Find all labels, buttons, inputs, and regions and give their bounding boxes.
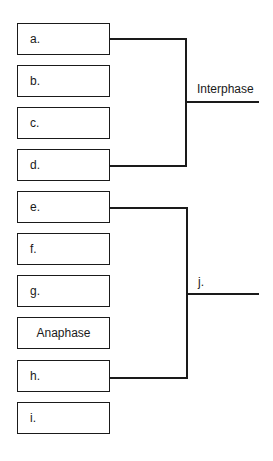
- box-label: h.: [30, 369, 40, 383]
- box-e: e.: [17, 191, 110, 223]
- box-label: d.: [30, 158, 40, 172]
- connector-line: [110, 165, 187, 167]
- j-label: j.: [198, 275, 204, 289]
- box-h: h.: [17, 360, 110, 392]
- box-label: i.: [30, 411, 36, 425]
- box-d: d.: [17, 149, 110, 181]
- connector-line: [110, 38, 187, 40]
- box-c: c.: [17, 107, 110, 139]
- box-label: c.: [30, 116, 39, 130]
- box-b: b.: [17, 65, 110, 97]
- box-label: Anaphase: [18, 326, 109, 340]
- box-g: g.: [17, 275, 110, 307]
- connector-line: [110, 377, 188, 379]
- output-line: [185, 101, 259, 103]
- box-label: e.: [30, 200, 40, 214]
- box-label: g.: [30, 284, 40, 298]
- box-anaphase: Anaphase: [17, 317, 110, 349]
- box-f: f.: [17, 233, 110, 265]
- box-label: f.: [30, 242, 37, 256]
- box-i: i.: [17, 402, 110, 434]
- box-a: a.: [17, 23, 110, 55]
- box-label: b.: [30, 74, 40, 88]
- box-label: a.: [30, 32, 40, 46]
- output-line: [186, 293, 259, 295]
- connector-line: [110, 207, 188, 209]
- interphase-label: Interphase: [197, 82, 254, 96]
